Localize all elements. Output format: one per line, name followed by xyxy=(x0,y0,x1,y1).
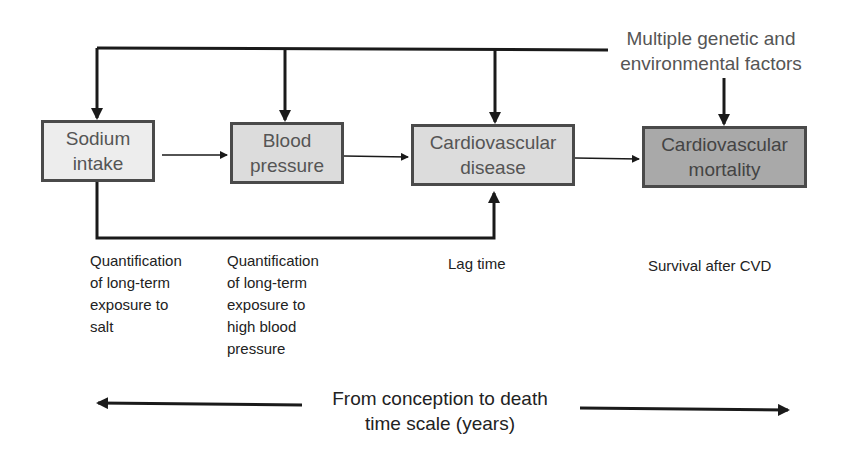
arrow-sodium-to-cvd xyxy=(97,182,494,238)
factors-label: Multiple genetic and environmental facto… xyxy=(606,26,816,76)
arrow-cvd-to-mortality xyxy=(575,158,639,159)
timescale-label: From conception to death time scale (yea… xyxy=(305,386,575,436)
node-blood-pressure: Blood pressure xyxy=(230,122,344,184)
annotation-salt-exposure: Quantification of long-term exposure to … xyxy=(90,250,182,338)
node-label: Cardiovascular mortality xyxy=(661,132,788,182)
arrow-bp-to-cvd xyxy=(344,156,408,157)
node-cardiovascular-mortality: Cardiovascular mortality xyxy=(642,126,807,188)
node-label: Cardiovascular disease xyxy=(430,130,557,180)
node-sodium-intake: Sodium intake xyxy=(41,120,155,182)
annotation-survival: Survival after CVD xyxy=(648,255,771,277)
node-cardiovascular-disease: Cardiovascular disease xyxy=(411,124,575,186)
annotation-lag-time: Lag time xyxy=(448,253,506,275)
node-label: Sodium intake xyxy=(66,126,130,176)
node-label: Blood pressure xyxy=(250,128,324,178)
annotation-bp-exposure: Quantification of long-term exposure to … xyxy=(227,250,319,360)
timescale-left-arrow xyxy=(98,403,302,405)
timescale-right-arrow xyxy=(580,408,788,410)
